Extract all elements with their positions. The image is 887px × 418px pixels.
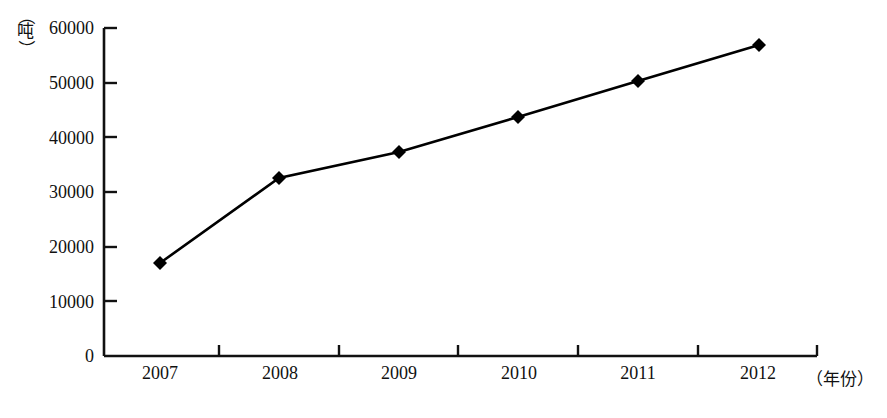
line-chart: （ 吨 ） 60000 50000 40000 30000 20000 1000… (0, 0, 887, 418)
data-point-2009 (392, 145, 406, 159)
data-series-line (160, 45, 759, 263)
data-point-2012 (752, 38, 766, 52)
y-axis-ticks (104, 28, 117, 301)
x-axis-ticks (219, 345, 817, 356)
plot-area (0, 0, 887, 418)
data-point-2011 (631, 74, 645, 88)
data-point-markers (153, 38, 766, 270)
data-point-2010 (511, 110, 525, 124)
